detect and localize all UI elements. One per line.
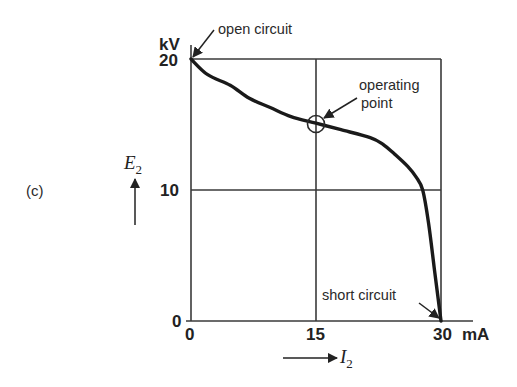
panel-label: (c) [26,183,44,198]
operating-point-arrow [324,98,357,118]
short-circuit-arrow [419,303,439,318]
e2-axis-symbol: E2 [124,153,142,172]
x-tick-30: 30 [433,326,452,343]
x-tick-15: 15 [306,326,325,343]
short-circuit-label: short circuit [322,288,396,303]
x-tick-0: 0 [185,326,194,343]
i2-axis-symbol: I2 [340,347,353,366]
open-circuit-arrow [193,30,214,57]
e2-subscript: 2 [136,162,143,177]
x-unit-label: mA [462,326,489,343]
operating-point-label-line1: operating [359,78,419,93]
operating-point-label-line2: point [361,96,392,111]
y-tick-10: 10 [160,182,179,199]
y-tick-20: 20 [159,52,178,69]
y-tick-0: 0 [172,313,181,330]
e2-symbol: E [124,152,136,173]
open-circuit-label: open circuit [218,22,292,37]
i2-subscript: 2 [346,356,353,371]
